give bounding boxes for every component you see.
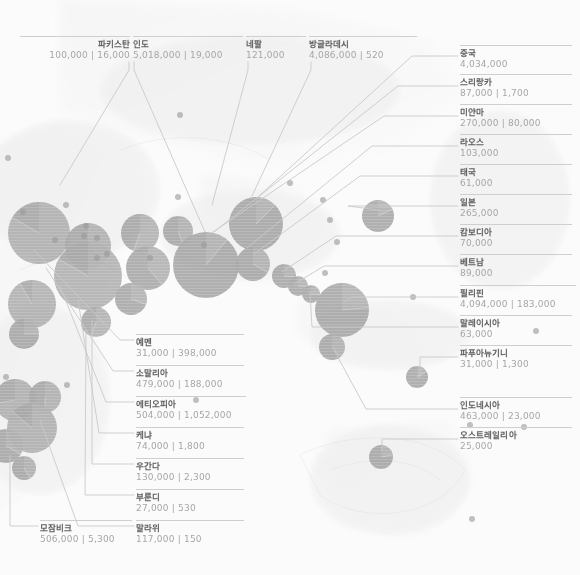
map-dot-24 bbox=[64, 382, 70, 388]
map-dot-5 bbox=[94, 235, 100, 241]
country-values: 89,000 bbox=[460, 267, 572, 279]
country-label-소말리아[interactable]: 소말리아479,000 | 188,000 bbox=[136, 365, 244, 390]
map-dot-10 bbox=[177, 112, 183, 118]
map-dot-15 bbox=[327, 217, 333, 223]
country-label-중국[interactable]: 중국4,034,000 bbox=[460, 45, 572, 70]
country-label-라오스[interactable]: 라오스103,000 bbox=[460, 134, 572, 159]
map-dot-25 bbox=[3, 374, 9, 380]
country-label-베트남[interactable]: 베트남89,000 bbox=[460, 254, 572, 279]
country-label-네팔[interactable]: 네팔121,000 bbox=[246, 36, 306, 61]
bubble-16 bbox=[229, 197, 283, 251]
bubble-21 bbox=[315, 283, 369, 337]
country-name: 스리랑카 bbox=[460, 74, 572, 87]
leader-line-bottom_left-6 bbox=[40, 420, 134, 526]
country-label-우간다[interactable]: 우간다130,000 | 2,300 bbox=[136, 458, 244, 483]
country-values: 506,000 | 5,300 bbox=[40, 533, 132, 545]
map-dot-6 bbox=[94, 255, 100, 261]
leader-line-bottom_left-4 bbox=[92, 320, 134, 464]
country-name: 캄보디아 bbox=[460, 224, 572, 237]
map-dot-17 bbox=[334, 239, 340, 245]
map-dot-7 bbox=[52, 237, 58, 243]
map-dot-1 bbox=[20, 209, 26, 215]
leader-line-bottom_left-3 bbox=[78, 300, 134, 433]
leader-line-bottom_left-1 bbox=[46, 268, 134, 371]
country-label-스리랑카[interactable]: 스리랑카87,000 | 1,700 bbox=[460, 74, 572, 99]
bubble-2 bbox=[121, 214, 159, 252]
country-values: 479,000 | 188,000 bbox=[136, 378, 244, 390]
leader-line-top-3 bbox=[252, 62, 311, 196]
bubble-map-canvas: 파키스탄100,000 | 16,000인도5,018,000 | 19,000… bbox=[0, 0, 580, 575]
leader-line-right-3 bbox=[247, 146, 458, 248]
country-values: 5,018,000 | 19,000 bbox=[133, 49, 243, 61]
country-values: 63,000 bbox=[460, 328, 572, 340]
country-name: 인도네시아 bbox=[460, 397, 572, 410]
country-values: 121,000 bbox=[246, 49, 306, 61]
leader-line-right-12 bbox=[382, 439, 458, 450]
leader-line-top-1 bbox=[134, 62, 205, 232]
map-dot-13 bbox=[287, 180, 293, 186]
country-name: 네팔 bbox=[246, 36, 306, 49]
country-label-인도[interactable]: 인도5,018,000 | 19,000 bbox=[133, 36, 243, 61]
country-label-케냐[interactable]: 케냐74,000 | 1,800 bbox=[136, 427, 244, 452]
country-label-미얀마[interactable]: 미얀마270,000 | 80,000 bbox=[460, 104, 572, 129]
country-values: 103,000 bbox=[460, 147, 572, 159]
leader-line-bottom_left-5 bbox=[85, 330, 134, 495]
country-name: 예멘 bbox=[136, 334, 244, 347]
country-label-캄보디아[interactable]: 캄보디아70,000 bbox=[460, 224, 572, 249]
bubble-7 bbox=[81, 307, 111, 337]
bubble-24 bbox=[406, 366, 428, 388]
leader-line-right-1 bbox=[214, 86, 458, 232]
country-values: 117,000 | 150 bbox=[136, 533, 244, 545]
bubble-10 bbox=[0, 379, 36, 421]
map-dot-0 bbox=[5, 155, 11, 161]
country-name: 말레이시아 bbox=[460, 315, 572, 328]
bubble-5 bbox=[126, 246, 170, 290]
country-label-파푸아뉴기니[interactable]: 파푸아뉴기니31,000 | 1,300 bbox=[460, 345, 572, 370]
bubble-13 bbox=[0, 429, 23, 463]
country-label-태국[interactable]: 태국61,000 bbox=[460, 164, 572, 189]
country-label-인도네시아[interactable]: 인도네시아463,000 | 23,000 bbox=[460, 397, 572, 422]
country-label-말레이시아[interactable]: 말레이시아63,000 bbox=[460, 315, 572, 340]
map-dot-16 bbox=[320, 197, 326, 203]
country-name: 태국 bbox=[460, 164, 572, 177]
map-dot-3 bbox=[83, 223, 89, 229]
leader-line-top-2 bbox=[212, 62, 248, 205]
country-label-에티오피아[interactable]: 에티오피아504,000 | 1,052,000 bbox=[136, 396, 246, 421]
bubble-20 bbox=[302, 285, 320, 303]
country-label-필리핀[interactable]: 필리핀4,094,000 | 183,000 bbox=[460, 285, 576, 310]
country-name: 말라위 bbox=[136, 520, 244, 533]
country-values: 270,000 | 80,000 bbox=[460, 117, 572, 129]
leader-line-right-4 bbox=[254, 176, 458, 254]
map-dot-20 bbox=[469, 516, 475, 522]
map-dot-9 bbox=[147, 255, 153, 261]
country-name: 일본 bbox=[460, 194, 572, 207]
leader-line-right-0 bbox=[258, 56, 458, 197]
bubble-25 bbox=[369, 445, 393, 469]
country-values: 4,034,000 bbox=[460, 58, 572, 70]
map-dot-4 bbox=[81, 233, 87, 239]
bubble-22 bbox=[319, 334, 345, 360]
country-values: 31,000 | 1,300 bbox=[460, 358, 572, 370]
country-label-파키스탄[interactable]: 파키스탄100,000 | 16,000 bbox=[20, 36, 130, 61]
leader-line-right-5 bbox=[348, 206, 458, 210]
country-label-일본[interactable]: 일본265,000 bbox=[460, 194, 572, 219]
country-values: 504,000 | 1,052,000 bbox=[136, 409, 246, 421]
bubble-18 bbox=[272, 264, 296, 288]
country-values: 4,086,000 | 520 bbox=[309, 49, 417, 61]
country-values: 130,000 | 2,300 bbox=[136, 471, 244, 483]
country-name: 오스트레일리아 bbox=[460, 427, 572, 440]
country-label-모잠비크[interactable]: 모잠비크506,000 | 5,300 bbox=[40, 520, 132, 545]
leader-line-right-6 bbox=[282, 236, 458, 272]
bubble-0 bbox=[8, 202, 70, 264]
country-name: 인도 bbox=[133, 36, 243, 49]
country-label-말라위[interactable]: 말라위117,000 | 150 bbox=[136, 520, 244, 545]
bubble-1 bbox=[65, 223, 111, 269]
country-name: 라오스 bbox=[460, 134, 572, 147]
country-name: 파키스탄 bbox=[20, 36, 130, 49]
country-label-부룬디[interactable]: 부룬디27,000 | 530 bbox=[136, 489, 244, 514]
country-label-오스트레일리아[interactable]: 오스트레일리아25,000 bbox=[460, 427, 572, 452]
country-label-방글라데시[interactable]: 방글라데시4,086,000 | 520 bbox=[309, 36, 417, 61]
leader-line-bottom_left-7 bbox=[10, 455, 38, 526]
country-label-예멘[interactable]: 예멘31,000 | 398,000 bbox=[136, 334, 244, 359]
bubble-17 bbox=[236, 247, 270, 281]
